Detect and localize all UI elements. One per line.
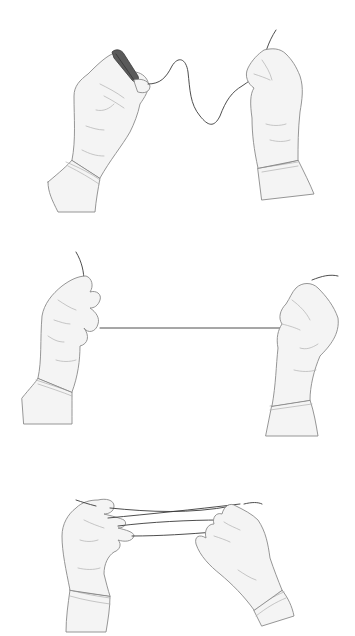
hands-taut-thread-illustration xyxy=(0,220,355,440)
panel-step-3 xyxy=(0,440,355,636)
illustration-canvas xyxy=(0,0,355,636)
panel-step-1 xyxy=(0,0,355,220)
hands-slack-thread-illustration xyxy=(0,0,355,220)
hands-wrapped-thread-illustration xyxy=(0,440,355,636)
panel-step-2 xyxy=(0,220,355,440)
